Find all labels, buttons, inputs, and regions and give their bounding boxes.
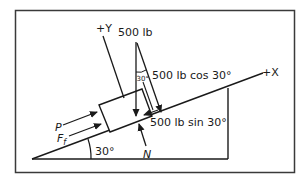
x-axis-label: +X bbox=[262, 66, 279, 79]
friction-force-label: Ff bbox=[57, 132, 67, 147]
parallel-component-label: 500 lb sin 30° bbox=[150, 116, 227, 129]
free-body-diagram: 30° +Y 500 lb 500 lb cos 30° 30° 500 lb … bbox=[0, 0, 307, 181]
y-axis-line bbox=[103, 36, 124, 98]
applied-force-vector bbox=[63, 112, 97, 125]
normal-force-vector bbox=[139, 124, 146, 146]
block bbox=[99, 89, 152, 132]
weight-normal-angle-label: 30° bbox=[137, 75, 149, 83]
normal-component-label: 500 lb cos 30° bbox=[152, 69, 232, 82]
normal-force-label: N bbox=[143, 148, 151, 161]
y-axis-label: +Y bbox=[96, 22, 112, 35]
incline-angle-arc bbox=[88, 139, 91, 159]
weight-normal-angle-arc bbox=[136, 70, 146, 72]
incline-angle-label: 30° bbox=[95, 145, 115, 158]
diagram-frame bbox=[16, 11, 295, 173]
weight-label: 500 lb bbox=[118, 26, 153, 39]
friction-force-vector bbox=[69, 124, 101, 136]
